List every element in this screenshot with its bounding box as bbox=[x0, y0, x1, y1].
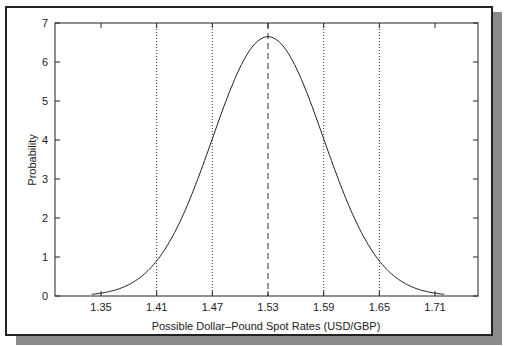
y-tick-label: 5 bbox=[42, 95, 48, 107]
y-axis: 01234567 bbox=[42, 17, 478, 302]
y-axis-label: Probability bbox=[26, 134, 38, 186]
x-axis-label: Possible Dollar–Pound Spot Rates (USD/GB… bbox=[152, 320, 381, 332]
x-tick-label: 1.53 bbox=[257, 301, 278, 313]
y-tick-label: 0 bbox=[42, 290, 48, 302]
plot-area-border bbox=[55, 23, 478, 296]
y-tick-label: 4 bbox=[42, 134, 48, 146]
x-tick-label: 1.35 bbox=[90, 301, 111, 313]
chart: 1.351.411.471.531.591.651.71 01234567 Po… bbox=[0, 0, 507, 346]
x-tick-label: 1.65 bbox=[369, 301, 390, 313]
x-tick-label: 1.59 bbox=[313, 301, 334, 313]
x-tick-label: 1.47 bbox=[202, 301, 223, 313]
reference-lines bbox=[157, 23, 380, 296]
y-tick-label: 7 bbox=[42, 17, 48, 29]
x-tick-label: 1.71 bbox=[424, 301, 445, 313]
y-tick-label: 2 bbox=[42, 212, 48, 224]
y-tick-label: 6 bbox=[42, 56, 48, 68]
y-tick-label: 3 bbox=[42, 173, 48, 185]
x-tick-label: 1.41 bbox=[146, 301, 167, 313]
y-tick-label: 1 bbox=[42, 251, 48, 263]
